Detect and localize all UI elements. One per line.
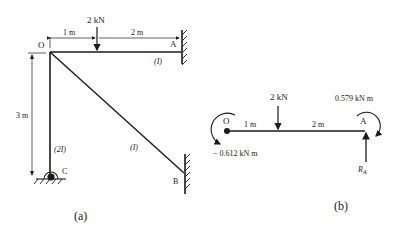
load-label-b: 2 kN (270, 92, 288, 102)
dim-label-2m: 2 m (131, 28, 144, 37)
member-OC-stiffness: (2I) (54, 145, 66, 154)
structure-diagram: 2 kN 1 m 2 m 3 m O A B C (I) (I) (2I) (a… (0, 0, 396, 230)
node-A-label-b: A (360, 116, 367, 126)
reaction-A-label: RA (357, 165, 367, 175)
dim-label-1m-b: 1 m (244, 120, 257, 129)
caption-b: (b) (334, 199, 348, 213)
figure-b: 2 kN 1 m 2 m O A − 0.612 kN m 0.579 kN m… (211, 92, 380, 213)
dim-label-3m: 3 m (16, 111, 29, 120)
member-OB-stiffness: (I) (130, 143, 138, 152)
figure-a: 2 kN 1 m 2 m 3 m O A B C (I) (I) (2I) (a… (16, 15, 190, 223)
vertical-dimension (28, 53, 46, 176)
node-O-dot (224, 128, 230, 134)
member-OA-stiffness: (I) (154, 57, 162, 66)
load-label-a: 2 kN (87, 15, 105, 25)
moment-O-label: − 0.612 kN m (213, 149, 258, 158)
fixed-support-A-icon (182, 30, 187, 65)
member-OB (50, 52, 184, 173)
dim-label-2m-b: 2 m (312, 120, 325, 129)
node-C-label: C (62, 167, 67, 176)
node-O-label-b: O (223, 116, 230, 126)
node-A-label: A (170, 39, 177, 49)
dim-label-1m: 1 m (63, 28, 76, 37)
caption-a: (a) (74, 209, 87, 223)
fixed-support-B-icon (185, 154, 190, 194)
node-B-label: B (173, 177, 178, 186)
node-O-label: O (38, 40, 45, 50)
moment-A-label: 0.579 kN m (335, 94, 374, 103)
horizontal-dimension (50, 37, 179, 48)
